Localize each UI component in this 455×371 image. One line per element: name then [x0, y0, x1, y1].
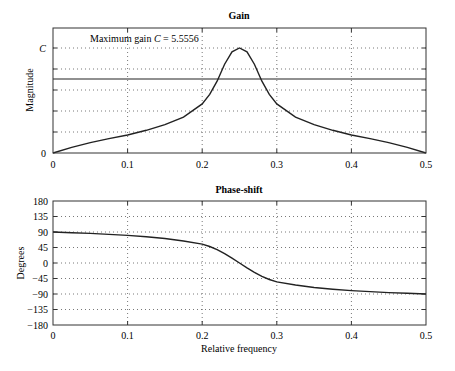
phase-x-ticks: 00.10.20.30.40.5	[51, 201, 433, 341]
gain-ytick-c: C	[39, 43, 46, 54]
phase-ytick-label: 135	[33, 211, 48, 222]
phase-ytick-label: 45	[38, 242, 48, 253]
phase-ytick-label: −90	[32, 289, 48, 300]
gain-xtick-label: 0.5	[420, 159, 433, 170]
gain-xtick-label: 0	[51, 159, 56, 170]
phase-title: Phase-shift	[215, 184, 263, 195]
gain-grid	[53, 28, 426, 153]
gain-title: Gain	[228, 10, 250, 21]
phase-xlabel: Relative frequency	[201, 343, 277, 354]
chart-canvas: Gain 00.10.20.30.40.5 C 0 Magnitude Maxi…	[0, 0, 455, 371]
phase-curve	[53, 232, 426, 294]
gain-xtick-label: 0.3	[271, 159, 284, 170]
phase-panel: Phase-shift 00.10.20.30.40.5 −180−135−90…	[15, 184, 432, 354]
phase-ytick-label: −135	[27, 304, 48, 315]
gain-panel: Gain 00.10.20.30.40.5 C 0 Magnitude Maxi…	[24, 10, 432, 170]
gain-xtick-label: 0.2	[196, 159, 209, 170]
gain-xtick-label: 0.1	[121, 159, 134, 170]
gain-xtick-label: 0.4	[345, 159, 358, 170]
phase-ylabel: Degrees	[15, 247, 26, 280]
phase-xtick-label: 0	[51, 330, 56, 341]
gain-frame	[53, 28, 426, 153]
gain-ytick-0: 0	[41, 148, 46, 159]
phase-ytick-label: 90	[38, 227, 48, 238]
phase-ytick-label: −45	[32, 273, 48, 284]
phase-xtick-label: 0.3	[271, 330, 284, 341]
phase-ytick-label: −180	[27, 320, 48, 331]
phase-y-ticks: −180−135−90−4504590135180	[27, 196, 48, 331]
phase-ytick-label: 0	[43, 258, 48, 269]
phase-xtick-label: 0.4	[345, 330, 358, 341]
gain-curve	[53, 48, 426, 153]
gain-ylabel: Magnitude	[24, 68, 35, 112]
phase-xtick-label: 0.2	[196, 330, 209, 341]
phase-xtick-label: 0.5	[420, 330, 433, 341]
gain-annotation: Maximum gain C = 5.5556	[90, 33, 199, 44]
phase-ytick-label: 180	[33, 196, 48, 207]
phase-xtick-label: 0.1	[121, 330, 134, 341]
